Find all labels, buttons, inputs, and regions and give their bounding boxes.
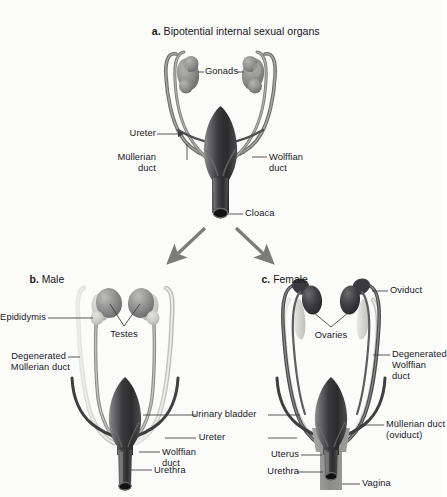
arrow-to-male [169,228,205,262]
label-ureter-a: Ureter [108,128,156,139]
gonad-right [240,56,267,94]
label-wolffian-duct-b-line1: Wolffian [162,447,196,458]
label-urethra-b: Urethra [154,465,186,476]
label-testes: Testes [106,329,142,340]
testis-left [90,286,124,325]
label-ovaries: Ovaries [310,330,352,341]
differentiation-arrows [169,228,272,262]
label-gonads: Gonads [205,66,238,77]
label-mullerian-duct-c-line2: (oviduct) [386,430,423,441]
label-wolffian-duct-a-line1: Wolffian [269,152,303,163]
panel-b-marker: b. [30,274,39,285]
panel-c-marker: c. [262,274,271,285]
label-mullerian-duct-a-line1: Müllerian [96,152,156,163]
label-cloaca: Cloaca [245,208,275,219]
label-mullerian-duct-a-line2: duct [96,163,156,174]
label-vagina: Vagina [362,478,391,489]
testis-right [126,286,160,325]
gonad-left [175,56,202,94]
label-degenerated-wolffian-line1: Degenerated [392,349,447,360]
label-epididymis: Epididymis [0,312,46,323]
label-mullerian-duct-c-line1: Müllerian duct [386,419,445,430]
label-uterus: Uterus [255,449,299,460]
label-degenerated-wolffian-line3: duct [392,371,410,382]
label-ureter-shared: Ureter [186,432,238,443]
label-oviduct: Oviduct [390,285,422,296]
panel-b-title: b. Male [18,262,64,298]
label-degenerated-wolffian-line2: Wolffian [392,360,426,371]
panel-a-marker: a. [152,25,161,37]
label-urinary-bladder: Urinary bladder [180,409,268,420]
arrow-to-female [236,228,272,262]
panel-c-title-text: Female [273,274,308,285]
panel-a-title: a. Bipotential internal sexual organs [140,13,320,49]
label-degenerated-mullerian-line2: Müllerian duct [0,362,70,373]
panel-a-title-text: Bipotential internal sexual organs [164,25,320,37]
panel-b-title-text: Male [42,274,65,285]
panel-c-title: c. Female [250,262,308,298]
label-degenerated-mullerian-line1: Degenerated [0,351,66,362]
label-urethra-c: Urethra [249,466,299,477]
label-wolffian-duct-a-line2: duct [269,163,287,174]
